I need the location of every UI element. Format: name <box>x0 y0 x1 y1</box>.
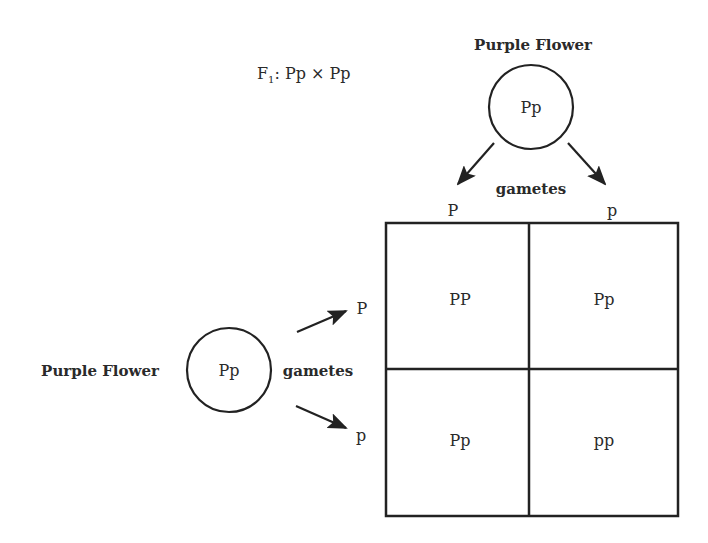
punnett-cell-r2c1: Pp <box>449 431 470 450</box>
punnett-cell-r1c1: PP <box>449 290 471 309</box>
top-gametes-label: gametes <box>496 180 567 198</box>
cross-label: F1: Pp × Pp <box>257 64 351 85</box>
left-parent-genotype: Pp <box>218 361 239 380</box>
left-gamete-arrow-down-icon <box>296 406 346 428</box>
top-parent-genotype: Pp <box>520 98 541 117</box>
top-gamete-arrow-right-icon <box>568 143 605 184</box>
left-gamete-1: P <box>357 299 368 318</box>
left-gamete-arrow-up-icon <box>297 311 346 332</box>
punnett-square: PP Pp Pp pp <box>386 223 678 516</box>
left-parent: Purple Flower Pp gametes P p <box>41 299 368 445</box>
top-gamete-arrow-left-icon <box>458 143 494 184</box>
top-parent-label: Purple Flower <box>474 36 593 54</box>
punnett-cell-r2c2: pp <box>594 431 614 450</box>
top-gamete-2: p <box>607 201 617 220</box>
left-gamete-2: p <box>356 426 366 445</box>
left-gametes-label: gametes <box>283 362 354 380</box>
left-parent-label: Purple Flower <box>41 362 160 380</box>
monohybrid-cross-diagram: F1: Pp × Pp Purple Flower Pp gametes P p… <box>0 0 708 543</box>
top-parent: Purple Flower Pp gametes P p <box>448 36 618 220</box>
punnett-cell-r1c2: Pp <box>593 290 614 309</box>
top-gamete-1: P <box>448 201 459 220</box>
